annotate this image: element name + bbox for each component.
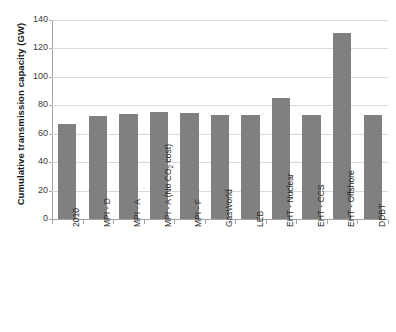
x-tick-label: EHT - CCS (316, 185, 326, 227)
x-tick-mark (83, 220, 84, 224)
y-tick-label: 60 (14, 129, 48, 138)
x-tick-label: MPI - D (102, 198, 112, 227)
y-tick-mark (49, 77, 52, 78)
y-axis-tick-labels: 020406080100120140 (8, 20, 48, 219)
x-tick-mark (52, 220, 53, 224)
y-tick-mark (49, 20, 52, 21)
y-tick-mark (49, 105, 52, 106)
x-tick-mark (235, 220, 236, 224)
x-tick-mark (266, 220, 267, 224)
x-tick-label: MPI - F (193, 199, 203, 227)
x-tick-label: MPI - A (132, 199, 142, 227)
y-tick-mark (49, 191, 52, 192)
x-tick-label: DDBT (377, 204, 387, 227)
x-tick-mark (174, 220, 175, 224)
x-tick-mark (113, 220, 114, 224)
x-tick-label: LEB (255, 211, 265, 227)
y-tick-label: 100 (14, 72, 48, 81)
y-tick-mark (49, 134, 52, 135)
x-tick-mark (357, 220, 358, 224)
y-tick-label: 40 (14, 157, 48, 166)
x-tick-mark (388, 220, 389, 224)
x-tick-label: EHT - Offshore (346, 170, 356, 227)
y-tick-mark (49, 48, 52, 49)
bar[interactable] (58, 124, 76, 219)
x-tick-label: EHT - Nuclear (285, 173, 295, 227)
y-tick-label: 140 (14, 15, 48, 24)
x-tick-label: 2010 (71, 208, 81, 227)
y-tick-mark (49, 162, 52, 163)
x-tick-mark (205, 220, 206, 224)
bar-chart: Cumulative transmission capacity (GW) 02… (0, 0, 396, 332)
y-tick-label: 20 (14, 186, 48, 195)
y-tick-label: 120 (14, 43, 48, 52)
x-tick-mark (144, 220, 145, 224)
x-tick-label: MPI - A (No CO2 cost) (163, 144, 173, 227)
bars-layer (52, 20, 388, 219)
x-tick-mark (327, 220, 328, 224)
x-tick-mark (296, 220, 297, 224)
x-axis-tick-labels: 2010MPI - DMPI - AMPI - A (No CO2 cost)M… (0, 219, 396, 332)
y-tick-label: 80 (14, 100, 48, 109)
x-tick-label: GasWorld (224, 189, 234, 227)
bar[interactable] (241, 115, 259, 219)
